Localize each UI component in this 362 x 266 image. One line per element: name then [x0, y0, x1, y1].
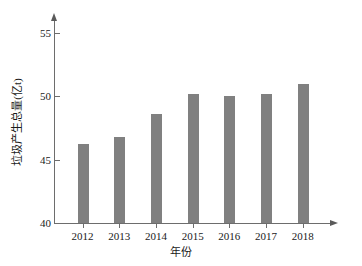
- y-axis-title: 垃圾产生总量(亿t): [8, 57, 24, 187]
- x-tick-mark: [266, 224, 267, 228]
- y-axis-arrow-icon: [51, 13, 57, 21]
- x-tick-label: 2017: [246, 230, 286, 242]
- x-tick-mark: [193, 224, 194, 228]
- y-tick-label: 50: [25, 91, 51, 102]
- x-tick-mark: [229, 224, 230, 228]
- x-tick-label: 2015: [173, 230, 213, 242]
- bar: [188, 94, 199, 223]
- x-tick-mark: [83, 224, 84, 228]
- x-tick-mark: [156, 224, 157, 228]
- y-tick-label: 40: [25, 218, 51, 229]
- bar: [78, 144, 89, 223]
- y-tick-mark: [55, 33, 60, 34]
- y-tick-mark: [55, 96, 60, 97]
- bar-chart: 40455055 2012201320142015201620172018 垃圾…: [0, 0, 362, 266]
- bar: [298, 84, 309, 223]
- y-tick-mark: [55, 160, 60, 161]
- x-tick-label: 2016: [209, 230, 249, 242]
- x-axis-arrow-icon: [330, 220, 338, 226]
- x-tick-label: 2012: [63, 230, 103, 242]
- x-axis-title: 年份: [0, 243, 362, 259]
- bar: [114, 137, 125, 223]
- y-tick-label: 55: [25, 28, 51, 39]
- y-tick-label: 45: [25, 155, 51, 166]
- x-tick-label: 2018: [283, 230, 323, 242]
- y-tick-mark: [55, 223, 60, 224]
- x-tick-label: 2013: [99, 230, 139, 242]
- bar: [224, 96, 235, 223]
- x-tick-mark: [119, 224, 120, 228]
- x-tick-mark: [303, 224, 304, 228]
- bar: [151, 114, 162, 223]
- x-tick-label: 2014: [136, 230, 176, 242]
- bar: [261, 94, 272, 223]
- y-axis-line: [54, 20, 55, 223]
